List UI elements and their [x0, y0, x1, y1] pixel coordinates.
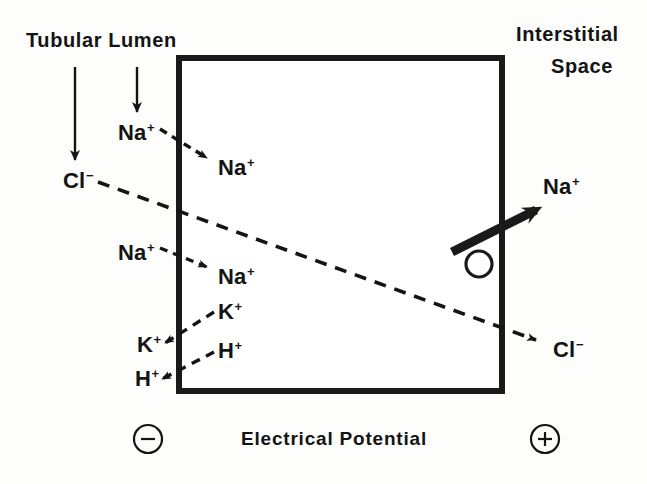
- h-lumen-label: H+: [135, 368, 159, 390]
- k-lumen-label: K+: [137, 334, 161, 356]
- diagram-canvas: Tubular Lumen Interstitial Space Cl− Na+…: [0, 0, 647, 484]
- na-lumen-lower-label: Na+: [118, 242, 155, 264]
- na-cell-upper-symbol: Na: [218, 155, 247, 180]
- interstitial-space-header-line2: Space: [551, 56, 613, 76]
- na-lumen-upper-symbol: Na: [118, 120, 147, 145]
- k-lumen-symbol: K: [137, 332, 153, 357]
- k-cell-charge: +: [235, 299, 243, 314]
- interstitial-space-header-line1: Interstitial: [516, 24, 619, 44]
- cl-interstitial-label: Cl−: [553, 339, 584, 361]
- na-cell-upper-charge: +: [247, 155, 255, 170]
- na-lumen-lower-symbol: Na: [118, 240, 147, 265]
- na-lumen-upper-charge: +: [147, 120, 155, 135]
- tubular-lumen-header: Tubular Lumen: [26, 30, 177, 50]
- cl-lumen-symbol: Cl: [63, 168, 85, 193]
- na-cell-lower-label: Na+: [218, 266, 255, 288]
- h-cell-symbol: H: [218, 338, 234, 363]
- diagram-vector-layer: [0, 0, 647, 484]
- electrical-potential-title: Electrical Potential: [241, 429, 427, 448]
- na-interstitial-charge: +: [572, 174, 580, 189]
- k-cell-symbol: K: [218, 299, 234, 324]
- na-cell-lower-charge: +: [247, 264, 255, 279]
- na-interstitial-symbol: Na: [543, 174, 572, 199]
- na-lumen-lower-charge: +: [147, 240, 155, 255]
- na-cell-lower-symbol: Na: [218, 264, 247, 289]
- na-interstitial-label: Na+: [543, 176, 580, 198]
- cl-lumen-label: Cl−: [63, 170, 94, 192]
- cl-lumen-charge: −: [86, 168, 94, 183]
- h-lumen-charge: +: [152, 366, 160, 381]
- h-lumen-symbol: H: [135, 366, 151, 391]
- h-cell-charge: +: [235, 338, 243, 353]
- k-cell-label: K+: [218, 301, 242, 323]
- na-lumen-upper-label: Na+: [118, 122, 155, 144]
- na-cell-upper-label: Na+: [218, 157, 255, 179]
- k-lumen-charge: +: [154, 332, 162, 347]
- cl-interstitial-symbol: Cl: [553, 337, 575, 362]
- h-cell-label: H+: [218, 340, 242, 362]
- cl-interstitial-charge: −: [576, 337, 584, 352]
